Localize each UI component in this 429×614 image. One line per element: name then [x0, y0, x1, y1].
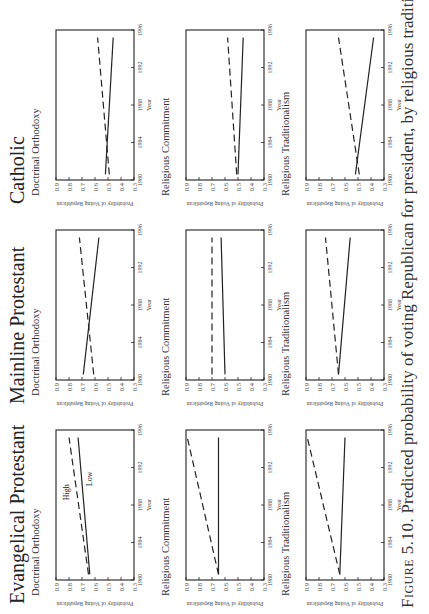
svg-text:1992: 1992 [137, 62, 143, 74]
chart-title: Religious Traditionalism [280, 492, 291, 596]
chart-plot: 0.90.80.70.60.50.40.31980198419881992199… [42, 410, 154, 610]
column-catholic: Catholic Doctrinal Orthodoxy 0.90.80.70.… [0, 10, 390, 210]
svg-text:0.7: 0.7 [209, 382, 216, 391]
svg-text:0.5: 0.5 [355, 183, 362, 191]
column-title: Mainline Protestant [6, 247, 29, 404]
svg-text:1996: 1996 [387, 224, 393, 236]
svg-text:1980: 1980 [267, 374, 273, 386]
svg-text:1980: 1980 [387, 174, 393, 186]
chart-title: Doctrinal Orthodoxy [30, 508, 41, 596]
svg-text:0.7: 0.7 [329, 382, 336, 391]
svg-text:0.8: 0.8 [66, 583, 73, 591]
column-mainline-protestant: Mainline Protestant Doctrinal Orthodoxy … [0, 210, 390, 410]
svg-text:1984: 1984 [137, 137, 143, 149]
chart-plot: 0.90.80.70.60.50.40.31980198419881992199… [292, 210, 404, 410]
svg-text:1988: 1988 [137, 499, 143, 511]
svg-text:0.6: 0.6 [342, 382, 349, 391]
chart-plot: 0.90.80.70.60.50.40.31980198419881992199… [292, 10, 404, 210]
svg-text:0.7: 0.7 [209, 582, 216, 591]
svg-text:1980: 1980 [137, 374, 143, 386]
svg-text:1988: 1988 [267, 299, 273, 311]
svg-text:1996: 1996 [137, 224, 143, 236]
svg-text:0.9: 0.9 [183, 583, 190, 591]
svg-text:0.4: 0.4 [248, 182, 255, 191]
svg-text:0.6: 0.6 [342, 582, 349, 591]
svg-text:1980: 1980 [387, 574, 393, 586]
svg-text:1980: 1980 [387, 374, 393, 386]
svg-text:0.5: 0.5 [355, 583, 362, 591]
svg-text:0.8: 0.8 [316, 583, 323, 591]
chart-plot: 0.90.80.70.60.50.40.31980198419881992199… [172, 10, 284, 210]
svg-text:1984: 1984 [267, 337, 273, 349]
svg-text:1984: 1984 [387, 337, 393, 349]
svg-text:0.9: 0.9 [303, 583, 310, 591]
svg-text:Probability of Voting Republic: Probability of Voting Republican [187, 201, 264, 207]
svg-text:1992: 1992 [137, 462, 143, 474]
svg-text:0.9: 0.9 [303, 383, 310, 391]
svg-text:0.9: 0.9 [53, 183, 60, 191]
svg-text:0.9: 0.9 [183, 183, 190, 191]
svg-text:0.8: 0.8 [196, 383, 203, 391]
svg-text:0.4: 0.4 [118, 182, 125, 191]
chart-plot: 0.90.80.70.60.50.40.31980198419881992199… [42, 10, 154, 210]
chart-plot: 0.90.80.70.60.50.40.31980198419881992199… [292, 410, 404, 610]
chart-title: Religious Traditionalism [280, 92, 291, 196]
svg-text:1996: 1996 [267, 424, 273, 436]
chart-title: Religious Commitment [160, 298, 171, 396]
svg-text:0.4: 0.4 [368, 382, 375, 391]
column-title: Catholic [6, 136, 29, 204]
svg-text:1988: 1988 [387, 499, 393, 511]
svg-text:1988: 1988 [137, 99, 143, 111]
svg-text:0.8: 0.8 [66, 383, 73, 391]
svg-text:0.5: 0.5 [235, 183, 242, 191]
svg-text:1996: 1996 [387, 24, 393, 36]
annotation-low: Low [85, 471, 94, 486]
svg-text:0.4: 0.4 [248, 582, 255, 591]
svg-text:1992: 1992 [137, 262, 143, 274]
svg-text:0.8: 0.8 [196, 583, 203, 591]
annotation-high: High [62, 484, 71, 500]
svg-text:0.9: 0.9 [183, 383, 190, 391]
svg-text:Probability of Voting Republic: Probability of Voting Republican [307, 601, 384, 607]
svg-text:0.7: 0.7 [79, 582, 86, 591]
svg-text:1992: 1992 [387, 262, 393, 274]
svg-text:0.7: 0.7 [79, 182, 86, 191]
chart-title: Religious Commitment [160, 98, 171, 196]
svg-text:1996: 1996 [137, 424, 143, 436]
chart-title: Doctrinal Orthodoxy [30, 108, 41, 196]
svg-text:0.6: 0.6 [342, 182, 349, 191]
svg-text:Year: Year [145, 498, 152, 511]
svg-text:0.6: 0.6 [92, 382, 99, 391]
chart-mainline-religious-traditionalism: Religious Traditionalism 0.90.80.70.60.5… [280, 210, 410, 410]
svg-text:0.5: 0.5 [105, 383, 112, 391]
column-title: Evangelical Protestant [6, 425, 29, 604]
svg-text:0.4: 0.4 [368, 182, 375, 191]
svg-text:Probability of Voting Republic: Probability of Voting Republican [57, 601, 134, 607]
chart-evangelical-doctrinal-orthodoxy: Doctrinal Orthodoxy 0.90.80.70.60.50.40.… [30, 410, 160, 610]
svg-text:0.9: 0.9 [53, 583, 60, 591]
svg-text:1992: 1992 [267, 262, 273, 274]
svg-text:1992: 1992 [267, 462, 273, 474]
svg-text:0.6: 0.6 [92, 182, 99, 191]
svg-text:Probability of Voting Republic: Probability of Voting Republican [57, 401, 134, 407]
svg-text:0.4: 0.4 [118, 582, 125, 591]
svg-text:0.7: 0.7 [79, 382, 86, 391]
chart-catholic-religious-commitment: Religious Commitment 0.90.80.70.60.50.40… [160, 10, 290, 210]
svg-text:1996: 1996 [267, 224, 273, 236]
svg-text:1984: 1984 [137, 537, 143, 549]
svg-text:0.4: 0.4 [118, 382, 125, 391]
svg-text:1988: 1988 [137, 299, 143, 311]
svg-text:0.8: 0.8 [316, 183, 323, 191]
svg-text:1996: 1996 [137, 24, 143, 36]
svg-text:0.6: 0.6 [222, 382, 229, 391]
chart-plot: 0.90.80.70.60.50.40.31980198419881992199… [172, 410, 284, 610]
chart-plot: 0.90.80.70.60.50.40.31980198419881992199… [172, 210, 284, 410]
svg-text:1992: 1992 [387, 62, 393, 74]
svg-text:1988: 1988 [387, 299, 393, 311]
svg-text:0.4: 0.4 [248, 382, 255, 391]
chart-title: Religious Traditionalism [280, 292, 291, 396]
svg-text:Year: Year [145, 298, 152, 311]
svg-text:0.7: 0.7 [209, 182, 216, 191]
chart-evangelical-religious-traditionalism: Religious Traditionalism 0.90.80.70.60.5… [280, 410, 410, 610]
svg-text:1980: 1980 [137, 174, 143, 186]
